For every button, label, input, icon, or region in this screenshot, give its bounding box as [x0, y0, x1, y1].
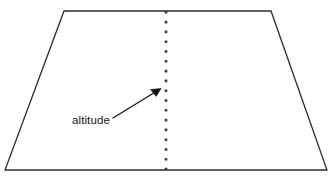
diagram-canvas: [0, 0, 332, 178]
altitude-label: altitude: [72, 114, 110, 127]
geometry-figure: altitude: [0, 0, 332, 178]
